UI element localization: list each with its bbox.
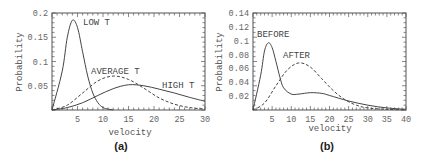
- caption-a: (a): [114, 140, 128, 152]
- x-tick-label: 30: [200, 115, 210, 125]
- caption-b: (b): [320, 140, 334, 152]
- x-axis-label-a: velocity: [108, 128, 152, 138]
- y-axis-label-a: Probability: [15, 32, 25, 92]
- x-tick-label: 30: [363, 115, 373, 125]
- x-tick-label: 10: [286, 115, 296, 125]
- x-tick-label: 25: [174, 115, 184, 125]
- y-tick-label: 0.14: [229, 9, 249, 19]
- chart-b: 5101520253035400.020.040.060.080.10.120.…: [229, 9, 412, 125]
- x-tick-label: 20: [149, 115, 159, 125]
- x-tick-label: 15: [123, 115, 133, 125]
- series-before: [253, 43, 406, 110]
- x-tick-label: 40: [401, 115, 411, 125]
- y-tick-label: 0.2: [33, 9, 48, 19]
- y-tick-label: 0.1: [33, 58, 48, 68]
- label-high-t: HIGH T: [162, 81, 195, 91]
- series-low-t: [52, 20, 113, 110]
- y-tick-label: 0.1: [234, 37, 249, 47]
- series-after: [253, 63, 406, 110]
- x-tick-label: 5: [75, 115, 80, 125]
- label-after: AFTER: [283, 51, 311, 61]
- y-tick-label: 0.15: [28, 33, 48, 43]
- x-tick-label: 10: [98, 115, 108, 125]
- x-tick-label: 35: [382, 115, 392, 125]
- y-tick-label: 0.02: [229, 92, 249, 102]
- y-tick-label: 0.08: [229, 51, 249, 61]
- y-tick-label: 0.05: [28, 82, 48, 92]
- x-tick-label: 5: [270, 115, 275, 125]
- label-average-t: AVERAGE T: [91, 67, 140, 77]
- label-before: BEFORE: [257, 30, 289, 40]
- y-tick-label: 0.12: [229, 23, 249, 33]
- y-tick-label: 0.06: [229, 64, 249, 74]
- figure: 510152025300.050.10.150.2 LOW T AVERAGE …: [0, 0, 428, 160]
- y-tick-label: 0.04: [229, 78, 249, 88]
- x-axis-label-b: velocity: [308, 124, 352, 134]
- label-low-t: LOW T: [83, 18, 111, 28]
- y-axis-label-b: Probability: [215, 32, 225, 92]
